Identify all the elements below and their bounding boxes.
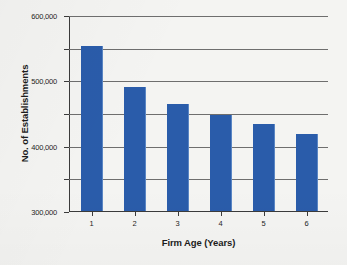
y-axis-tick-label: 500,000 — [31, 77, 57, 86]
x-axis-tick-label: 4 — [199, 219, 242, 228]
bar — [167, 104, 189, 211]
y-axis-tick: 100,000 — [64, 179, 69, 180]
y-axis-tick-label: 400,000 — [31, 142, 57, 151]
y-axis-tick: 600,000 — [64, 16, 69, 17]
x-axis-tick — [135, 212, 136, 216]
x-axis-tick — [92, 212, 93, 216]
x-axis-tick-slot: 6 — [285, 212, 328, 230]
bar-slot — [113, 16, 156, 211]
bar — [210, 115, 232, 211]
y-axis-tick: 500,000 — [64, 49, 69, 50]
y-axis-tick: 200,000 — [64, 147, 69, 148]
x-axis-ticks: 123456 — [70, 212, 328, 230]
bar-slot — [285, 16, 328, 211]
x-axis-tick — [307, 212, 308, 216]
bar — [296, 134, 318, 211]
bar-slot — [156, 16, 199, 211]
x-axis-tick-slot: 3 — [156, 212, 199, 230]
bar — [124, 87, 146, 211]
x-axis-tick — [264, 212, 265, 216]
bar — [253, 124, 275, 211]
x-axis-tick-label: 2 — [113, 219, 156, 228]
x-axis-tick-slot: 2 — [113, 212, 156, 230]
y-axis-title: No. of Establishments — [19, 34, 30, 194]
x-axis-tick-slot: 4 — [199, 212, 242, 230]
bar-slot — [199, 16, 242, 211]
x-axis-tick — [221, 212, 222, 216]
x-axis-tick-slot: 5 — [242, 212, 285, 230]
x-axis-tick-label: 6 — [285, 219, 328, 228]
y-axis-tick: 400,000 — [64, 81, 69, 82]
bar-series — [70, 16, 328, 211]
x-axis-tick-label: 5 — [242, 219, 285, 228]
x-axis-tick — [178, 212, 179, 216]
y-axis-tick-label: 300,000 — [31, 208, 57, 217]
x-axis-tick-label: 1 — [70, 219, 113, 228]
bar — [81, 46, 103, 211]
x-axis-tick-slot: 1 — [70, 212, 113, 230]
bar-slot — [242, 16, 285, 211]
y-axis-tick: 0.00 — [64, 212, 69, 213]
x-axis-tick-label: 3 — [156, 219, 199, 228]
y-axis-tick-label: 600,000 — [31, 12, 57, 21]
plot-area: 0.00100,000200,000300,000400,000500,0006… — [69, 16, 328, 212]
bar-chart: No. of Establishments 0.00100,000200,000… — [0, 0, 347, 265]
x-axis-title: Firm Age (Years) — [69, 237, 328, 248]
y-axis-tick: 300,000 — [64, 114, 69, 115]
bar-slot — [70, 16, 113, 211]
